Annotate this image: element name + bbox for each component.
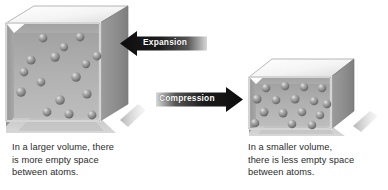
compression-arrow-label: Compression bbox=[159, 93, 215, 103]
small-volume-caption: In a smaller volume, there is less empty… bbox=[248, 141, 384, 179]
diagram-figure: Expansion Compression In a larger volume… bbox=[0, 0, 388, 190]
large-box-side-face bbox=[100, 6, 128, 121]
small-box-shadow bbox=[353, 111, 378, 132]
large-volume-caption: In a larger volume, there is more empty … bbox=[12, 141, 152, 179]
large-box-interior-left bbox=[6, 23, 14, 127]
small-volume-box bbox=[249, 59, 378, 136]
large-volume-box bbox=[6, 6, 146, 133]
large-box-shadow bbox=[120, 104, 146, 127]
expansion-arrow-label: Expansion bbox=[143, 37, 187, 47]
large-box-interior-back bbox=[14, 33, 100, 118]
